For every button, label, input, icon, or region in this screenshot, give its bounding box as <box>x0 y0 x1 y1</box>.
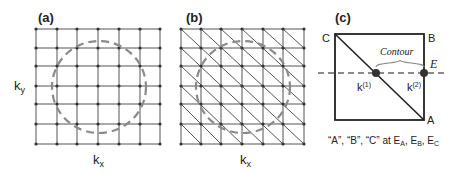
corner-a-label: A <box>427 114 435 126</box>
figure: (a) ky kx (b) <box>0 0 464 174</box>
panel-c-label: (c) <box>335 10 351 25</box>
k2-point <box>420 69 428 77</box>
corner-c-label: C <box>322 32 330 44</box>
energy-label: E <box>429 57 438 71</box>
kx-label-b: kx <box>240 152 252 169</box>
contour-brace <box>376 60 424 67</box>
kx-label-a: kx <box>93 152 105 169</box>
panel-a: (a) ky kx <box>14 10 162 169</box>
panel-c: (c) C B A E Contour k(1) k(2) “A”, “B”, … <box>318 10 444 147</box>
corner-caption: “A”, “B”, “C” at EA, EB, EC <box>328 135 439 147</box>
panel-b-label: (b) <box>186 10 203 25</box>
k1-point <box>372 69 380 77</box>
panel-a-label: (a) <box>38 10 54 25</box>
ky-label: ky <box>14 78 26 95</box>
panel-b: (b) kx <box>179 10 305 169</box>
contour-label: Contour <box>380 46 413 57</box>
k2-label: k(2) <box>407 81 421 93</box>
corner-b-label: B <box>428 32 435 44</box>
k1-label: k(1) <box>357 81 371 93</box>
